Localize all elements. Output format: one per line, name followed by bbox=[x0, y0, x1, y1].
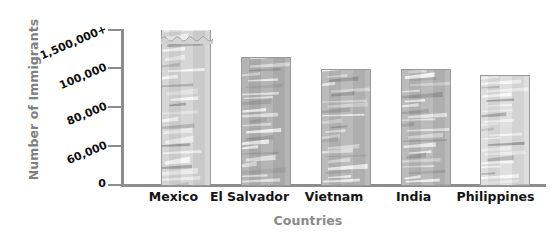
bar-el-salvador[interactable] bbox=[241, 57, 291, 186]
y-axis-tick-label: 80,000 bbox=[64, 100, 108, 129]
bar-vietnam[interactable] bbox=[321, 69, 371, 186]
bar-chart: Number of Immigrants 1,500,000+100,00080… bbox=[0, 0, 556, 236]
y-axis-tick bbox=[108, 67, 121, 69]
category-label-el-salvador: El Salvador bbox=[202, 189, 297, 204]
y-axis-tick bbox=[108, 29, 121, 31]
bar-philippines[interactable] bbox=[480, 75, 530, 186]
y-axis-tick bbox=[108, 145, 121, 147]
y-axis-tick bbox=[108, 184, 121, 186]
bar-texture bbox=[481, 76, 529, 185]
y-axis-tick-label: 0 bbox=[98, 177, 106, 190]
y-axis-tick-label: 100,000 bbox=[57, 61, 108, 93]
y-axis-tick bbox=[108, 106, 121, 108]
axis-break-wavy-top bbox=[161, 29, 213, 39]
bar-india[interactable] bbox=[401, 69, 451, 186]
y-axis-tick-label: 1,500,000+ bbox=[38, 23, 109, 63]
bar-texture bbox=[402, 70, 450, 185]
plot-area bbox=[123, 26, 543, 188]
y-axis-title: Number of Immigrants bbox=[26, 5, 41, 195]
bar-texture bbox=[162, 30, 210, 185]
bar-texture bbox=[242, 58, 290, 185]
category-label-philippines: Philippines bbox=[443, 189, 548, 204]
category-label-india: India bbox=[376, 189, 451, 204]
x-axis-title: Countries bbox=[0, 213, 556, 228]
bar-mexico[interactable] bbox=[161, 30, 211, 186]
category-label-vietnam: Vietnam bbox=[289, 189, 379, 204]
bar-texture bbox=[322, 70, 370, 185]
y-axis-tick-label: 60,000 bbox=[64, 139, 108, 168]
